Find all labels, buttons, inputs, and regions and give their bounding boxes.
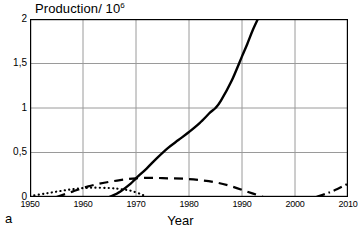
x-axis-label: Year [0, 213, 361, 228]
panel-label: a [5, 211, 12, 226]
x-tick-1980: 1980 [174, 200, 204, 209]
x-tick-2010: 2010 [333, 200, 361, 209]
x-tick-1970: 1970 [121, 200, 151, 209]
x-axis-ticks: 1950 1960 1970 1980 1990 2000 2010 [0, 0, 361, 237]
x-tick-1950: 1950 [15, 200, 45, 209]
x-tick-1960: 1960 [68, 200, 98, 209]
figure-panel: Production/ 106 [0, 0, 361, 237]
x-tick-1990: 1990 [227, 200, 257, 209]
x-tick-2000: 2000 [280, 200, 310, 209]
